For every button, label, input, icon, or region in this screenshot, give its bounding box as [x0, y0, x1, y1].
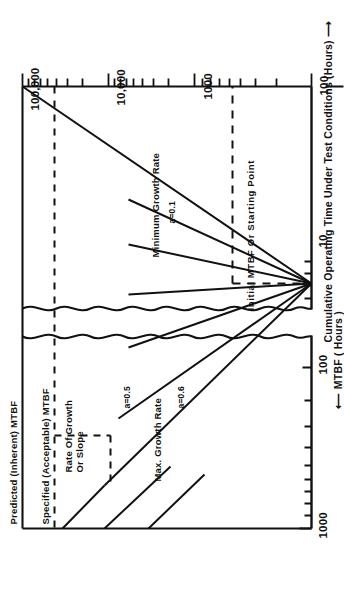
y-tick-label-10: 10	[316, 234, 329, 247]
break-squiggle-right	[22, 306, 311, 309]
annotation-initial-mtbf: Initial MTBF Or Starting Point	[245, 160, 256, 310]
growth-label-a05: a=0.5	[122, 385, 132, 408]
x-tick-label-10000: 10,000	[114, 69, 127, 105]
y-tick-label-1000: 1000	[316, 512, 329, 538]
growth-line-a05	[118, 283, 311, 418]
growth-label-a06: a=0.6	[176, 385, 186, 408]
y-axis-arrow-icon: ⟵	[331, 392, 343, 408]
annotation-rate-of-growth: Rate Of Growth Or Slope	[63, 400, 84, 472]
annotation-rate-of-growth-line1: Rate Of Growth	[63, 400, 74, 472]
annotation-rate-of-growth-line2: Or Slope	[74, 400, 85, 472]
y-tick-label-100: 100	[316, 354, 329, 374]
annotation-minimum-growth-rate: Minimum Growth Rate	[150, 152, 161, 257]
y-axis-title: ⟵ MTBF ( Hours )	[332, 311, 344, 408]
y-axis-title-text: MTBF ( Hours )	[331, 311, 343, 389]
annotation-max-growth-rate: Max. Growth Rate	[152, 398, 163, 481]
growth-line-a06-ext	[62, 485, 104, 528]
x-axis-title: Cumulative Operating Time Under Test Con…	[322, 20, 334, 342]
x-tick-label-100: 100	[317, 75, 330, 95]
time-axis-ticks	[22, 73, 311, 86]
growth-line-a06	[104, 283, 311, 485]
x-tick-label-100000: 100,000	[28, 67, 41, 110]
annotation-predicted-mtbf: Predicted (Inherent) MTBF	[8, 400, 19, 524]
annotation-specified-mtbf: Specified (Acceptable) MTBF	[40, 388, 51, 524]
mtbf-minor-ticks	[299, 261, 311, 528]
x-tick-label-1000: 1000	[201, 73, 214, 99]
x-axis-arrow-icon: ⟶	[321, 20, 333, 36]
growth-label-a01: a=0.1	[167, 200, 177, 223]
